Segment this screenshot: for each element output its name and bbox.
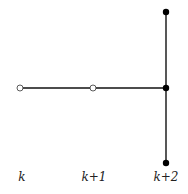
node-open-k1	[90, 85, 96, 91]
node-open-k	[17, 85, 23, 91]
diagram-canvas: k k+1 k+2	[0, 0, 188, 194]
label-k-plus-2: k+2	[154, 170, 179, 184]
node-filled-bottom	[163, 160, 169, 166]
label-k: k	[18, 170, 25, 184]
node-filled-top	[163, 9, 169, 15]
node-filled-center	[163, 85, 169, 91]
label-k-plus-1: k+1	[82, 170, 107, 184]
